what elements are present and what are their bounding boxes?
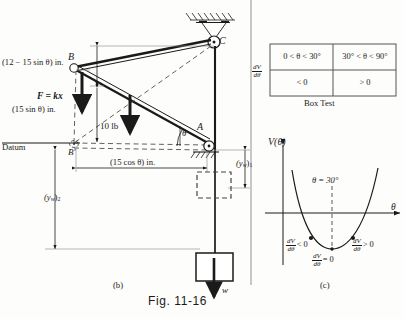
dim-label-weight-height-1: (yw)1 xyxy=(236,159,252,169)
point-label-a: A xyxy=(197,122,203,132)
panel-c-caption: (c) xyxy=(320,281,330,290)
weight-label: w xyxy=(222,286,228,295)
point-label-c: C xyxy=(219,36,226,46)
panel-b-caption: (b) xyxy=(113,281,123,290)
dim-label-horizontal: (15 cos θ) in. xyxy=(110,158,155,167)
box-test-row-label: dVdθ xyxy=(252,62,262,79)
applied-load-label: 10 lb xyxy=(100,122,118,131)
plot-annotation-left: dVdθ < 0 xyxy=(286,238,308,253)
original-weight-box xyxy=(197,172,231,198)
plot-x-axis-label: θ xyxy=(391,203,396,213)
dim-label-weight-height-2: (yw)2 xyxy=(44,193,60,203)
box-test-column-2-header: 30° < θ < 90° xyxy=(337,53,393,61)
figure-number: Fig. 11-16 xyxy=(148,295,207,307)
angle-label: θ xyxy=(182,129,186,138)
equilibrium-angle-label: θ = 30° xyxy=(312,176,338,185)
box-test-title: Box Test xyxy=(304,99,335,108)
member-cb xyxy=(75,40,211,67)
dim-label-vertical-upper: (12 − 15 sin θ) in. xyxy=(2,58,63,67)
plot-annotation-right: dVdθ > 0 xyxy=(352,238,374,253)
figure-11-16: (12 − 15 sin θ) in. (15 sin θ) in. (15 c… xyxy=(0,0,404,319)
spring-force-label: F = kx xyxy=(37,92,63,102)
plot-annotation-minimum: dVdθ = 0 xyxy=(312,253,334,268)
point-label-b: B xyxy=(68,52,74,62)
box-test-value-2: > 0 xyxy=(337,79,393,87)
ceiling-support xyxy=(186,13,235,37)
box-test-column-1-header: 0 < θ < 30° xyxy=(277,53,327,61)
dim-label-vertical-lower: (15 sin θ) in. xyxy=(12,105,56,114)
point-label-b-prime: B' xyxy=(68,148,75,157)
member-ba xyxy=(76,70,208,143)
box-test-value-1: < 0 xyxy=(277,79,327,87)
figure-vector-graphics xyxy=(0,0,404,319)
pin-joint-b xyxy=(70,64,78,72)
datum-label: Datum xyxy=(2,143,25,152)
plot-y-axis-label: V(θ) xyxy=(268,137,286,147)
